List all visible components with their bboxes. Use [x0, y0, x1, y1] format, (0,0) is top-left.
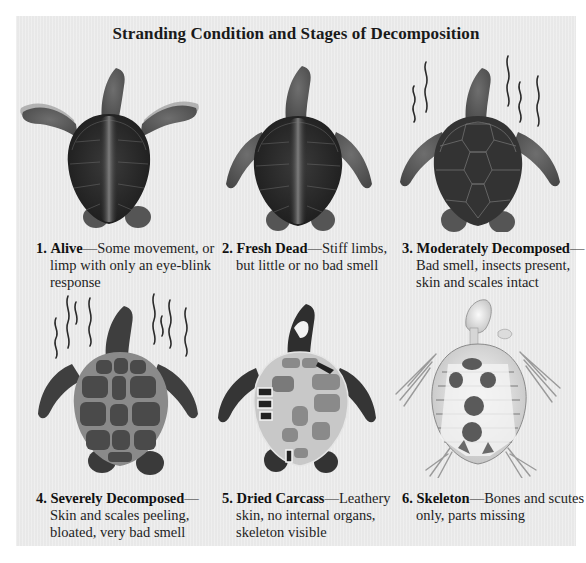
stage-1-caption: 1. Alive—Some movement, or limp with onl… — [36, 240, 220, 291]
stage-description: Skin and scales peeling, bloated, very b… — [50, 507, 189, 540]
stage-name: Skeleton — [417, 490, 470, 506]
page-title: Stranding Condition and Stages of Decomp… — [16, 24, 576, 44]
stage-name: Alive — [51, 240, 83, 256]
stage-4-caption: 4. Severely Decomposed—Skin and scales p… — [36, 490, 220, 541]
stage-dash: — — [184, 490, 199, 506]
decomposition-stages-panel: Stranding Condition and Stages of Decomp… — [16, 16, 576, 546]
stage-2-caption: 2. Fresh Dead—Stiff limbs, but little or… — [222, 240, 406, 274]
stage-name: Fresh Dead — [237, 240, 308, 256]
stage-6-caption: 6. Skeleton—Bones and scutes only, parts… — [402, 490, 586, 524]
stage-5-caption: 5. Dried Carcass—Leathery skin, no inter… — [222, 490, 406, 541]
stage-number: 2. — [222, 240, 233, 256]
turtle-moderately-decomposed-icon — [390, 42, 576, 232]
turtle-fresh-dead-icon — [206, 42, 392, 232]
stage-name: Dried Carcass — [237, 490, 325, 506]
turtle-dried-carcass-icon — [206, 288, 392, 478]
stage-number: 5. — [222, 490, 233, 506]
turtle-alive-icon — [16, 42, 202, 232]
stage-number: 6. — [402, 490, 413, 506]
stage-dash: — — [308, 240, 323, 256]
stage-name: Severely Decomposed — [51, 490, 185, 506]
stage-description: Bad smell, insects present, skin and sca… — [416, 257, 570, 290]
stage-dash: — — [470, 490, 485, 506]
stage-number: 4. — [36, 490, 47, 506]
stage-number: 1. — [36, 240, 47, 256]
stage-dash: — — [324, 490, 339, 506]
stage-dash: — — [83, 240, 98, 256]
stage-number: 3. — [402, 240, 413, 256]
turtle-skeleton-icon — [390, 288, 576, 478]
turtle-severely-decomposed-icon — [16, 288, 202, 478]
stage-name: Moderately Decomposed — [417, 240, 570, 256]
stage-3-caption: 3. Moderately Decomposed—Bad smell, inse… — [402, 240, 586, 291]
stage-dash: — — [570, 240, 585, 256]
